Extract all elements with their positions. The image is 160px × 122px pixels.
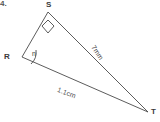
triangle-diagram-svg xyxy=(0,0,160,122)
vertex-label-s: S xyxy=(46,1,51,9)
triangle-side-rt xyxy=(22,57,148,112)
right-angle-marker-icon xyxy=(42,20,54,33)
vertex-label-r: R xyxy=(4,53,10,61)
vertex-label-t: T xyxy=(151,108,156,116)
geometry-figure: 4. S R T n 7mm 1.1cm xyxy=(0,0,160,122)
angle-label-n: n xyxy=(32,50,36,57)
triangle-side-st xyxy=(48,12,148,112)
